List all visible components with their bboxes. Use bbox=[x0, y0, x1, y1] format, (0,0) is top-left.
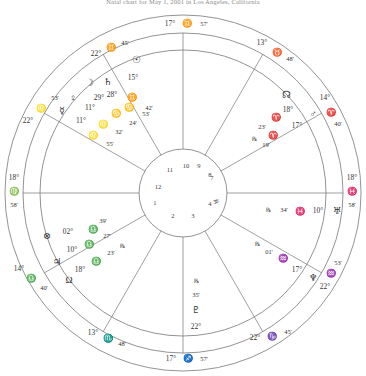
svg-text:23': 23' bbox=[258, 123, 266, 130]
house-number-1: 1 bbox=[153, 199, 156, 206]
house-number-2: 2 bbox=[171, 212, 174, 219]
planet-pluto: ℞ 35' ♇ 22° bbox=[191, 278, 201, 331]
svg-text:♄: ♄ bbox=[104, 76, 113, 87]
svg-text:♎: ♎ bbox=[84, 239, 94, 249]
svg-text:☽: ☽ bbox=[85, 77, 94, 88]
svg-text:22°: 22° bbox=[23, 116, 33, 125]
house-number-6: 6 bbox=[215, 197, 219, 204]
svg-text:18°: 18° bbox=[347, 173, 357, 182]
svg-text:♀: ♀ bbox=[69, 92, 76, 103]
svg-text:♋: ♋ bbox=[124, 102, 134, 112]
svg-text:11°: 11° bbox=[85, 103, 95, 112]
planet-libra-point-27: 10° ♎ 27' bbox=[67, 232, 111, 254]
svg-text:55': 55' bbox=[106, 140, 114, 147]
svg-text:♍: ♍ bbox=[9, 186, 19, 196]
svg-text:13°: 13° bbox=[88, 328, 98, 337]
cusp-label-ascendant: 18° ♍ 58' bbox=[9, 173, 19, 208]
svg-text:℞: ℞ bbox=[266, 207, 271, 213]
svg-text:℞: ℞ bbox=[255, 241, 260, 247]
svg-text:♈: ♈ bbox=[271, 112, 281, 122]
svg-text:22°: 22° bbox=[320, 282, 330, 291]
house-number-4: 4 bbox=[208, 200, 212, 207]
house-number-group: 1 2 3 4 5 6 7 8 9 10 11 12 bbox=[153, 162, 219, 219]
svg-text:♆: ♆ bbox=[309, 272, 318, 283]
svg-text:♑: ♑ bbox=[267, 331, 277, 341]
svg-text:14°: 14° bbox=[14, 264, 24, 273]
svg-text:48': 48' bbox=[118, 340, 126, 347]
svg-text:℞: ℞ bbox=[252, 136, 257, 142]
planet-jupiter: ♃ bbox=[53, 256, 62, 267]
svg-text:♒: ♒ bbox=[326, 268, 336, 278]
svg-text:57': 57' bbox=[200, 20, 208, 27]
svg-text:17°: 17° bbox=[292, 265, 302, 274]
cusp-label-descendant: 18° ♓ 58' bbox=[347, 173, 357, 208]
cusp-lines bbox=[23, 33, 343, 353]
svg-text:57': 57' bbox=[200, 355, 208, 362]
svg-text:53': 53' bbox=[51, 94, 59, 101]
svg-text:34': 34' bbox=[280, 206, 288, 213]
svg-text:23': 23' bbox=[107, 249, 115, 256]
svg-text:40': 40' bbox=[334, 120, 342, 127]
svg-text:☿: ☿ bbox=[59, 105, 65, 116]
svg-text:18°: 18° bbox=[9, 173, 19, 182]
house-number-11: 11 bbox=[167, 166, 173, 173]
svg-text:Ω: Ω bbox=[65, 274, 72, 285]
planet-uranus: ℞ 34' ♓ 10° ♅ bbox=[266, 205, 342, 216]
svg-text:♃: ♃ bbox=[53, 256, 62, 267]
svg-text:17°: 17° bbox=[292, 121, 302, 130]
house-number-12: 12 bbox=[155, 183, 162, 190]
svg-text:17°: 17° bbox=[166, 354, 176, 363]
svg-text:♊: ♊ bbox=[106, 42, 116, 52]
svg-text:10°: 10° bbox=[313, 206, 323, 215]
svg-text:45': 45' bbox=[284, 328, 292, 335]
planet-south-node: Ω bbox=[65, 274, 72, 285]
svg-text:11°: 11° bbox=[76, 116, 86, 125]
svg-text:♏: ♏ bbox=[103, 333, 113, 343]
svg-text:♌: ♌ bbox=[88, 130, 98, 140]
svg-text:22°: 22° bbox=[250, 333, 260, 342]
cusp-label-taurus-upper-right: 13° ♉ 48' bbox=[257, 38, 294, 62]
svg-text:35': 35' bbox=[192, 291, 200, 298]
svg-text:58': 58' bbox=[10, 201, 18, 208]
svg-text:♅: ♅ bbox=[333, 205, 342, 216]
svg-text:♎: ♎ bbox=[88, 224, 98, 234]
svg-text:45': 45' bbox=[121, 39, 129, 46]
cusp-label-gemini-top-left: 22° ♊ 45' bbox=[91, 39, 129, 58]
house-number-10: 10 bbox=[183, 162, 190, 169]
cusp-label-libra-left-lower: 14° ♎ 40' bbox=[14, 264, 48, 291]
planet-north-node: ☊ 18° ♈ bbox=[271, 89, 293, 122]
svg-text:⊗: ⊗ bbox=[43, 230, 51, 241]
svg-text:10°: 10° bbox=[67, 245, 77, 254]
svg-text:14°: 14° bbox=[320, 93, 330, 102]
cusp-label-aries-right-upper: 14° ♈ 40' bbox=[320, 93, 342, 127]
svg-text:♇: ♇ bbox=[192, 304, 201, 315]
svg-text:♓: ♓ bbox=[295, 206, 305, 216]
cusp-label-capricorn-bottom-right: 22° ♑ 45' bbox=[250, 328, 292, 342]
svg-text:39': 39' bbox=[99, 217, 107, 224]
svg-text:♐: ♐ bbox=[183, 353, 193, 363]
svg-text:28°: 28° bbox=[107, 90, 117, 99]
svg-text:18°: 18° bbox=[283, 105, 293, 114]
svg-text:48': 48' bbox=[286, 55, 294, 62]
svg-text:15°: 15° bbox=[128, 73, 138, 82]
svg-text:♎: ♎ bbox=[91, 256, 101, 266]
svg-text:♓: ♓ bbox=[347, 186, 357, 196]
svg-text:22°: 22° bbox=[91, 49, 101, 58]
svg-text:19': 19' bbox=[262, 141, 270, 148]
svg-text:53': 53' bbox=[334, 259, 342, 266]
svg-text:32': 32' bbox=[115, 128, 123, 135]
svg-text:♌: ♌ bbox=[36, 103, 46, 113]
svg-text:17°: 17° bbox=[165, 19, 175, 28]
svg-text:♉: ♉ bbox=[272, 47, 282, 57]
cusp-label-imum-coeli: 17° ♐ 57' bbox=[166, 353, 208, 363]
svg-text:℞: ℞ bbox=[194, 278, 199, 284]
svg-text:♊: ♊ bbox=[127, 92, 137, 102]
svg-text:♂: ♂ bbox=[309, 108, 316, 119]
svg-text:53': 53' bbox=[142, 110, 150, 117]
planet-libra-point-23: 18° ♎ 23' ℞ bbox=[75, 243, 125, 274]
svg-text:27': 27' bbox=[103, 232, 111, 239]
svg-text:♊: ♊ bbox=[182, 18, 192, 28]
svg-text:♌: ♌ bbox=[98, 119, 108, 129]
svg-text:18°: 18° bbox=[75, 265, 85, 274]
svg-text:02°: 02° bbox=[63, 227, 73, 236]
